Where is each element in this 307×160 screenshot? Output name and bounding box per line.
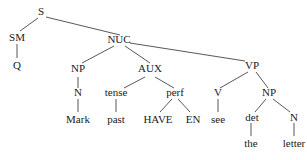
leaf-see: see <box>211 113 225 125</box>
leaf-HAVE: HAVE <box>143 113 172 125</box>
node-perf: perf <box>166 86 184 98</box>
leaf-past: past <box>107 113 125 125</box>
node-NP-subject: NP <box>71 62 85 74</box>
leaf-Mark: Mark <box>66 113 90 125</box>
leaf-the: the <box>244 137 258 149</box>
node-V: V <box>214 86 222 98</box>
node-Q: Q <box>13 59 21 71</box>
node-NP-object: NP <box>262 86 276 98</box>
leaf-EN: EN <box>186 113 201 125</box>
node-det: det <box>245 111 258 123</box>
leaf-letter: letter <box>283 137 306 149</box>
node-AUX: AUX <box>138 62 162 74</box>
node-NUC: NUC <box>107 33 130 45</box>
syntax-tree-diagram: S SM Q NUC NP AUX VP N tense perf V NP M… <box>0 0 307 160</box>
node-N-subject: N <box>74 86 82 98</box>
node-S: S <box>38 5 44 17</box>
node-N-object: N <box>290 111 298 123</box>
node-tense: tense <box>105 86 128 98</box>
node-VP: VP <box>245 59 259 71</box>
node-SM: SM <box>9 31 25 43</box>
